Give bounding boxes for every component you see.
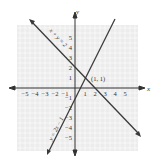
x-tick-label: −2 <box>52 90 59 97</box>
x-tick-label: 5 <box>123 90 126 97</box>
y-tick-label: −5 <box>65 134 72 141</box>
y-axis-label: y <box>75 8 80 16</box>
y-tick-label: 5 <box>69 34 72 41</box>
y-tick-label: 3 <box>69 54 72 61</box>
x-tick-label: 1 <box>83 90 86 97</box>
y-tick-label: 1 <box>69 74 72 81</box>
y-tick-label: 2 <box>69 64 72 71</box>
x-tick-label: −5 <box>22 90 29 97</box>
x-tick-label: −3 <box>42 90 49 97</box>
coordinate-plane-figure: x y −5 −4 −3 −2 −1 1 2 3 4 5 5 4 3 2 1 −… <box>0 0 155 166</box>
y-axis-bottom-arrow-icon <box>73 150 77 156</box>
x-axis-right-arrow-icon <box>139 86 145 90</box>
intersection-label: (1, 1) <box>91 75 105 83</box>
y-tick-label: −1 <box>65 94 72 101</box>
x-tick-label: −4 <box>32 90 40 97</box>
x-axis-label: x <box>146 85 151 93</box>
x-axis-left-arrow-icon <box>9 86 15 90</box>
y-tick-label: −4 <box>65 124 73 131</box>
x-tick-label: 2 <box>93 90 96 97</box>
x-tick-label: 3 <box>103 90 106 97</box>
